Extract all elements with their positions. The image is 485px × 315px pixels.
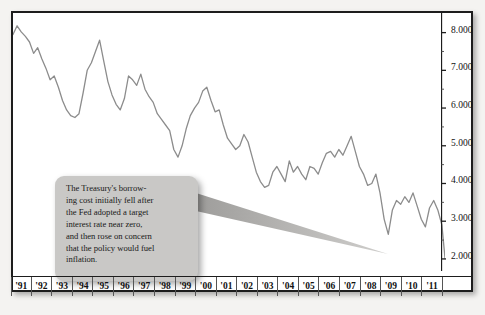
callout-line-7: inflation.: [66, 254, 189, 266]
callout-line-1: The Treasury's borrow-: [66, 183, 189, 195]
x-tick-label-11: '11: [422, 277, 443, 296]
x-tick-label-92: '92: [32, 277, 53, 296]
x-tick-label-10: '10: [402, 277, 423, 296]
x-tick-label-93: '93: [52, 277, 73, 296]
callout-line-3: the Fed adopted a target: [66, 207, 189, 219]
y-tick-label: 8.000: [451, 25, 472, 35]
x-tick-label-00: '00: [196, 277, 217, 296]
y-axis-labels: 8.0007.0006.0005.0004.0003.0002.000: [443, 11, 485, 292]
x-tick-label-05: '05: [299, 277, 320, 296]
chart-frame: The Treasury's borrow- ing cost initiall…: [11, 11, 473, 292]
annotation-callout: The Treasury's borrow- ing cost initiall…: [55, 176, 198, 281]
callout-pointer: [196, 191, 391, 257]
x-axis-labels: '91'92'93'94'95'96'97'98'99'00'01'02'03'…: [11, 276, 473, 296]
chart-screenshot: The Treasury's borrow- ing cost initiall…: [0, 0, 485, 315]
x-tick-label-09: '09: [381, 277, 402, 296]
callout-line-2: ing cost initially fell after: [66, 195, 189, 207]
x-tick-label-07: '07: [340, 277, 361, 296]
callout-line-6: that the policy would fuel: [66, 243, 189, 255]
x-tick-label-04: '04: [278, 277, 299, 296]
y-tick-label: 3.000: [451, 213, 472, 223]
x-tick-label-98: '98: [155, 277, 176, 296]
x-tick-label-99: '99: [176, 277, 197, 296]
y-tick-label: 4.000: [451, 175, 472, 185]
x-tick-label-96: '96: [114, 277, 135, 296]
y-tick-label: 2.000: [451, 251, 472, 261]
y-tick-label: 6.000: [451, 100, 472, 110]
x-tick-label-06: '06: [319, 277, 340, 296]
x-tick-label-03: '03: [258, 277, 279, 296]
x-tick-label-91: '91: [11, 277, 32, 296]
x-tick-label-08: '08: [361, 277, 382, 296]
x-tick-label-02: '02: [237, 277, 258, 296]
callout-line-4: interest rate near zero,: [66, 219, 189, 231]
callout-line-5: and then rose on concern: [66, 231, 189, 243]
y-tick-label: 5.000: [451, 138, 472, 148]
x-tick-label-95: '95: [93, 277, 114, 296]
x-tick-label-94: '94: [73, 277, 94, 296]
x-tick-label-97: '97: [134, 277, 155, 296]
x-tick-label-01: '01: [217, 277, 238, 296]
y-tick-label: 7.000: [451, 62, 472, 72]
